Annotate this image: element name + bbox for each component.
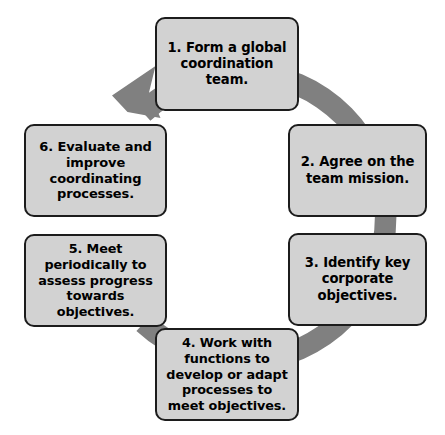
- step-box-1-label: 1. Form a global coordination team.: [162, 40, 292, 88]
- step-box-4-work-with-functions[interactable]: 4. Work with functions to develop or ada…: [155, 328, 299, 421]
- step-box-5-label: 5. Meet periodically to assess progress …: [31, 241, 160, 319]
- step-box-6-evaluate-and-improve[interactable]: 6. Evaluate and improve coordinating pro…: [24, 124, 167, 217]
- cycle-diagram: 1. Form a global coordination team. 2. A…: [0, 0, 445, 435]
- step-box-3-identify-key-corporate-objectives[interactable]: 3. Identify key corporate objectives.: [288, 233, 427, 326]
- step-box-3-label: 3. Identify key corporate objectives.: [295, 255, 420, 303]
- step-box-1-form-global-coordination-team[interactable]: 1. Form a global coordination team.: [155, 17, 299, 111]
- step-box-2-agree-on-team-mission[interactable]: 2. Agree on the team mission.: [288, 124, 427, 217]
- step-box-4-label: 4. Work with functions to develop or ada…: [162, 335, 292, 413]
- step-box-2-label: 2. Agree on the team mission.: [295, 154, 420, 186]
- step-box-5-meet-periodically[interactable]: 5. Meet periodically to assess progress …: [24, 234, 167, 327]
- step-box-6-label: 6. Evaluate and improve coordinating pro…: [31, 139, 160, 202]
